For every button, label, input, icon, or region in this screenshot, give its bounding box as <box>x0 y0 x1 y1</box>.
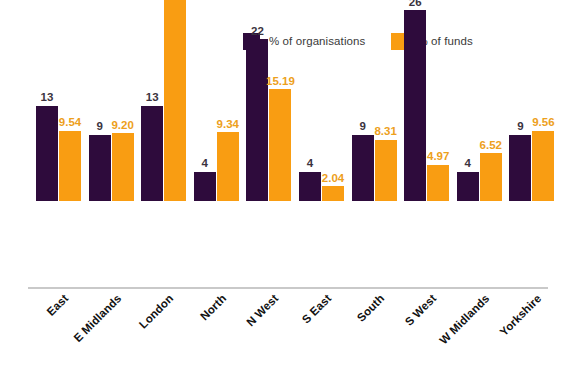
x-axis-label-s-west: S West <box>403 292 439 328</box>
x-axis-label-e-midlands: E Midlands <box>71 292 123 344</box>
bar-value-label: 15.19 <box>266 76 295 88</box>
bar-w-midlands-organisations[interactable]: 4 <box>457 172 479 201</box>
bar-s-west-funds[interactable]: 4.97 <box>427 165 449 202</box>
bar-yorkshire-funds[interactable]: 9.56 <box>532 131 554 201</box>
bar-e-midlands-organisations[interactable]: 9 <box>89 135 111 201</box>
bar-south-funds[interactable]: 8.31 <box>375 140 397 201</box>
bar-s-east-funds[interactable]: 2.04 <box>322 186 344 201</box>
bar-value-label: 13 <box>146 92 159 104</box>
bar-value-label: 6.52 <box>480 140 502 152</box>
x-axis-label-south: South <box>354 292 386 324</box>
bar-north-organisations[interactable]: 4 <box>194 172 216 201</box>
bar-value-label: 8.31 <box>374 126 396 138</box>
bar-value-label: 4.97 <box>427 151 449 163</box>
bar-value-label: 22 <box>251 26 264 38</box>
x-axis-label-east: East <box>45 292 71 318</box>
x-axis-label-london: London <box>137 292 176 331</box>
bar-east-funds[interactable]: 9.54 <box>59 131 81 201</box>
bar-n-west-funds[interactable]: 15.19 <box>269 89 291 201</box>
x-axis-line <box>28 287 548 289</box>
bar-value-label: 9.56 <box>532 117 554 129</box>
x-axis-label-w-midlands: W Midlands <box>437 292 491 346</box>
bar-value-label: 9 <box>359 121 365 133</box>
bar-e-midlands-funds[interactable]: 9.20 <box>112 133 134 201</box>
bar-value-label: 4 <box>202 158 208 170</box>
bar-value-label: 9 <box>96 121 102 133</box>
bar-w-midlands-funds[interactable]: 6.52 <box>480 153 502 201</box>
x-axis-label-n-west: N West <box>245 292 281 328</box>
bar-east-organisations[interactable]: 13 <box>36 106 58 201</box>
bar-value-label: 4 <box>465 158 471 170</box>
bar-chart: % of organisations % of funds 139.5499.2… <box>0 0 573 374</box>
bar-south-organisations[interactable]: 9 <box>352 135 374 201</box>
bar-london-organisations[interactable]: 13 <box>141 106 163 201</box>
bar-yorkshire-organisations[interactable]: 9 <box>509 135 531 201</box>
bar-value-label: 26 <box>409 0 422 8</box>
bar-value-label: 13 <box>41 92 54 104</box>
bar-north-funds[interactable]: 9.34 <box>217 132 239 201</box>
plot-area: 139.5499.201334.8649.342215.1942.0498.31… <box>0 0 573 288</box>
bar-s-east-organisations[interactable]: 4 <box>299 172 321 201</box>
bar-value-label: 2.04 <box>322 173 344 185</box>
bar-value-label: 9.54 <box>59 117 81 129</box>
x-axis-label-yorkshire: Yorkshire <box>498 292 544 338</box>
bar-n-west-organisations[interactable]: 22 <box>246 39 268 201</box>
x-axis-label-north: North <box>198 292 229 323</box>
bar-value-label: 9.20 <box>111 120 133 132</box>
bar-value-label: 9 <box>517 121 523 133</box>
bar-value-label: 9.34 <box>217 119 239 131</box>
bar-london-funds[interactable]: 34.86 <box>164 0 186 201</box>
x-axis-label-s-east: S East <box>300 292 334 326</box>
bar-s-west-organisations[interactable]: 26 <box>404 10 426 201</box>
bar-value-label: 4 <box>307 158 313 170</box>
